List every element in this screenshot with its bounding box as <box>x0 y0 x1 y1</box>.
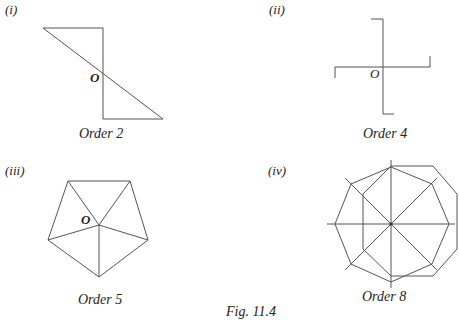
figure-canvas <box>0 0 459 321</box>
caption-order-4: Order 4 <box>363 126 407 142</box>
order-2-shape <box>43 28 163 119</box>
panel-index-ii: (ii) <box>269 2 285 18</box>
order-5-shape <box>48 181 148 277</box>
order-4-shape <box>335 19 430 114</box>
figure-caption: Fig. 11.4 <box>226 304 276 320</box>
caption-order-5: Order 5 <box>78 292 122 308</box>
panel-index-iii: (iii) <box>5 163 25 179</box>
centre-label-ii: O <box>370 66 379 82</box>
panel-index-i: (i) <box>5 2 17 18</box>
caption-order-8: Order 8 <box>362 289 406 305</box>
centre-label-i: O <box>90 70 99 86</box>
panel-index-iv: (iv) <box>268 163 286 179</box>
centre-label-iii: O <box>81 212 90 228</box>
caption-order-2: Order 2 <box>79 126 123 142</box>
order-8-shape <box>327 160 457 288</box>
